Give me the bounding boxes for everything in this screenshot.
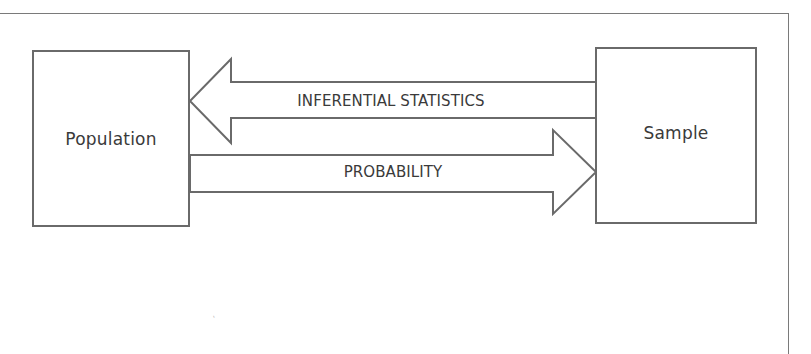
population-box: Population [32,50,190,227]
sample-label: Sample [644,123,709,143]
probability-label: PROBABILITY [344,163,443,181]
sample-box: Sample [595,47,757,224]
inferential-statistics-label: INFERENTIAL STATISTICS [297,92,484,110]
population-label: Population [65,129,156,149]
